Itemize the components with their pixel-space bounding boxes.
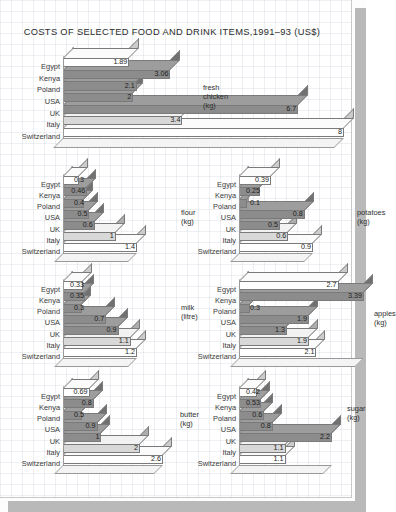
bar-value-label: 0.33: [64, 281, 84, 289]
category-label-usa: USA: [188, 425, 236, 434]
category-label-egypt: Egypt: [188, 180, 236, 189]
category-label-italy: Italy: [188, 236, 236, 245]
bar-top-face: [63, 48, 139, 58]
category-label-italy: Italy: [188, 448, 236, 457]
page-title: COSTS OF SELECTED FOOD AND DRINK ITEMS,1…: [0, 27, 344, 37]
category-label-italy: Italy: [12, 236, 60, 245]
category-label-egypt: Egypt: [188, 285, 236, 294]
category-label-uk: UK: [12, 109, 60, 118]
value-axis-front: [239, 175, 240, 253]
bar-value-label: 0.46: [65, 187, 85, 195]
bar-value-label: 0.5: [67, 210, 87, 218]
category-label-usa: USA: [188, 318, 236, 327]
category-label-kenya: Kenya: [12, 296, 60, 305]
bar-value-label: 1.3: [265, 326, 285, 334]
bar-value-label: 2: [118, 444, 138, 452]
series-name-apples: apples (kg): [374, 309, 396, 327]
category-label-italy: Italy: [12, 448, 60, 457]
category-label-uk: UK: [188, 437, 236, 446]
bar-value-label: 0.9: [97, 326, 117, 334]
value-axis-front: [239, 387, 240, 465]
bar-value-label: 1: [79, 433, 99, 441]
bar-value-label: 0.8: [251, 422, 271, 430]
category-label-kenya: Kenya: [188, 191, 236, 200]
bar-value-label: 2.6: [141, 455, 161, 463]
category-label-kenya: Kenya: [188, 403, 236, 412]
category-label-uk: UK: [188, 330, 236, 339]
category-label-switzerland: Switzerland: [12, 352, 60, 361]
bar-value-label: 0.3: [240, 304, 260, 312]
bar-value-label: 1.4: [115, 243, 135, 251]
value-axis-front: [63, 175, 64, 253]
category-label-egypt: Egypt: [12, 180, 60, 189]
bar-value-label: 0.5: [64, 411, 84, 419]
category-label-poland: Poland: [12, 414, 60, 423]
value-axis-front: [239, 280, 240, 358]
category-label-egypt: Egypt: [12, 62, 60, 71]
category-label-uk: UK: [12, 330, 60, 339]
category-label-usa: USA: [12, 425, 60, 434]
bar-value-label: 0.5: [258, 221, 278, 229]
bar-value-label: 3.06: [148, 70, 168, 78]
bar-value-label: 6.7: [276, 105, 296, 113]
bar-value-label: 2.2: [310, 433, 330, 441]
category-label-poland: Poland: [188, 202, 236, 211]
category-label-switzerland: Switzerland: [12, 247, 60, 256]
category-label-switzerland: Switzerland: [188, 459, 236, 468]
bar-value-label: 1.1: [109, 337, 129, 345]
series-name-potatoes: potatoes (kg): [357, 208, 385, 226]
category-label-uk: UK: [12, 225, 60, 234]
category-label-poland: Poland: [12, 85, 60, 94]
bar-value-label: 0.6: [266, 232, 286, 240]
bar-value-label: 2: [111, 93, 131, 101]
category-label-uk: UK: [188, 225, 236, 234]
category-label-poland: Poland: [188, 414, 236, 423]
category-label-poland: Poland: [12, 307, 60, 316]
bar-value-label: 0.53: [240, 399, 260, 407]
category-label-kenya: Kenya: [12, 403, 60, 412]
bar-value-label: 1.1: [264, 455, 284, 463]
value-axis-front: [63, 57, 64, 138]
bar-value-label: 0.6: [73, 221, 93, 229]
category-label-usa: USA: [12, 97, 60, 106]
bar-value-label: 0.9: [76, 422, 96, 430]
bar-value-label: 2.1: [115, 82, 135, 90]
category-label-uk: UK: [12, 437, 60, 446]
page-shadow-right: [355, 8, 366, 512]
category-label-kenya: Kenya: [12, 191, 60, 200]
bar-value-label: 1.9: [287, 315, 307, 323]
bar-value-label: 1.1: [264, 444, 284, 452]
category-label-italy: Italy: [12, 120, 60, 129]
category-label-poland: Poland: [12, 202, 60, 211]
bar-value-label: 0.39: [249, 176, 269, 184]
bar-value-label: 3.39: [342, 292, 362, 300]
bar-value-label: 0.4: [64, 199, 84, 207]
category-label-egypt: Egypt: [12, 285, 60, 294]
category-label-usa: USA: [188, 213, 236, 222]
bar-value-label: 0.6: [242, 411, 262, 419]
bar-value-label: 0.3: [64, 304, 84, 312]
category-label-switzerland: Switzerland: [12, 132, 60, 141]
category-label-switzerland: Switzerland: [188, 352, 236, 361]
bar-value-label: 1: [94, 232, 114, 240]
bar-value-label: 0.1: [240, 199, 260, 207]
series-name-sugar: sugar (kg): [347, 404, 366, 422]
bar-value-label: 1.89: [107, 58, 127, 66]
bar-value-label: 0.7: [84, 315, 104, 323]
category-label-kenya: Kenya: [188, 296, 236, 305]
category-label-italy: Italy: [188, 341, 236, 350]
bar-value-label: 8: [322, 128, 342, 136]
category-label-usa: USA: [12, 213, 60, 222]
bar-front-face: [63, 128, 344, 137]
category-label-poland: Poland: [188, 307, 236, 316]
category-label-usa: USA: [12, 318, 60, 327]
bar-value-label: 1.2: [115, 348, 135, 356]
value-axis-front: [63, 387, 64, 465]
bar-front-face: [63, 105, 298, 114]
bar-value-label: 0.3: [64, 176, 84, 184]
bar-value-label: 0.25: [240, 187, 260, 195]
bar-value-label: 0.69: [68, 388, 88, 396]
category-label-egypt: Egypt: [12, 392, 60, 401]
value-axis-front: [63, 280, 64, 358]
